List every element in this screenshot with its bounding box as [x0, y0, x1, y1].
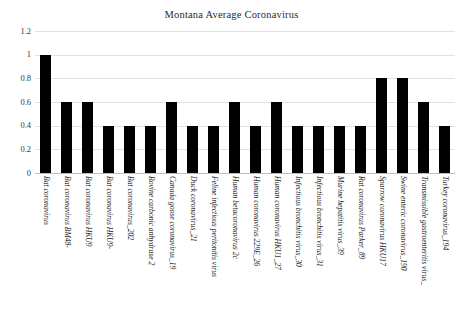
x-axis-tick: Turkey coronavirus_194 [438, 174, 452, 332]
x-axis-tick: Infectious bronchitis virus_30 [291, 174, 305, 332]
y-axis-tick-label: 0.8 [1, 74, 31, 83]
x-axis-tick-label: Transmissible gastroenteritis virus_ [420, 176, 428, 285]
bar [376, 78, 387, 173]
bar [439, 126, 450, 173]
y-axis-tick-label: 0.2 [1, 145, 31, 154]
x-axis-tick-label: Duck coronavirus_21 [189, 176, 197, 242]
bar [418, 102, 429, 173]
x-axis-tick: Swine enteric coronavirus_190 [396, 174, 410, 332]
bar [292, 126, 303, 173]
bar [61, 102, 72, 173]
y-axis-tick-label: 1 [1, 50, 31, 59]
bar [397, 78, 408, 173]
x-axis-tick: Murine hepatitis virus_39 [333, 174, 347, 332]
x-axis-tick-label: Bat coronavirus BM48- [63, 176, 71, 248]
bar [313, 126, 324, 173]
x-axis-tick-label: Human betacoronavirus 2c [231, 176, 239, 259]
x-axis-tick: Feline infectious peritonitis virus [207, 174, 221, 332]
x-axis-tick-label: Canada goose coronavirus_19 [168, 176, 176, 269]
x-axis-tick-label: Bat coronavirus_202 [126, 176, 134, 240]
bar [229, 102, 240, 173]
x-axis-tick: Bat coronavirus HKU9 [81, 174, 95, 332]
x-axis: Bat coronavirusBat coronavirus BM48-Bat … [35, 174, 455, 334]
x-axis-tick: Sparrow coronavirus HKU17 [375, 174, 389, 332]
x-axis-tick-label: Murine hepatitis virus_39 [336, 176, 344, 255]
y-axis-tick-label: 0.6 [1, 98, 31, 107]
x-axis-tick-label: Swine enteric coronavirus_190 [399, 176, 407, 271]
x-axis-tick-label: Bovine carbonic anhydrase 2 [147, 176, 155, 265]
x-axis-tick: Rat coronavirus Parker_89 [354, 174, 368, 332]
x-axis-tick: Bovine carbonic anhydrase 2 [144, 174, 158, 332]
x-axis-tick: Canada goose coronavirus_19 [165, 174, 179, 332]
x-axis-tick: Bat coronavirus HKU9- [102, 174, 116, 332]
x-axis-tick: Bat coronavirus BM48- [60, 174, 74, 332]
bar [271, 102, 282, 173]
bar [187, 126, 198, 173]
y-axis-tick-label: 0 [1, 169, 31, 178]
x-axis-tick-label: Infectious bronchitis virus_30 [294, 176, 302, 267]
x-axis-tick-label: Human coronavirus 229E_26 [252, 176, 260, 266]
bar [250, 126, 261, 173]
y-axis: 00.20.40.60.811.2 [0, 0, 31, 334]
bar [103, 126, 114, 173]
x-axis-tick: Duck coronavirus_21 [186, 174, 200, 332]
bar [166, 102, 177, 173]
x-axis-tick-label: Bat coronavirus [42, 176, 50, 225]
x-axis-tick-label: Bat coronavirus HKU9 [84, 176, 92, 247]
x-axis-tick: Bat coronavirus_202 [123, 174, 137, 332]
x-axis-tick: Bat coronavirus [39, 174, 53, 332]
x-axis-tick-label: Sparrow coronavirus HKU17 [378, 176, 386, 266]
bar [334, 126, 345, 173]
bar [40, 55, 51, 173]
x-axis-tick-label: Infectious bronchitis virus_31 [315, 176, 323, 267]
x-axis-tick: Infectious bronchitis virus_31 [312, 174, 326, 332]
x-axis-tick-label: Human coronavirus HKU1_27 [273, 176, 281, 270]
bars-layer [35, 31, 455, 173]
x-axis-tick-label: Bat coronavirus HKU9- [105, 176, 113, 249]
x-axis-tick: Transmissible gastroenteritis virus_ [417, 174, 431, 332]
x-axis-tick: Human betacoronavirus 2c [228, 174, 242, 332]
chart-title: Montana Average Coronavirus [0, 9, 463, 20]
bar [124, 126, 135, 173]
x-axis-tick-label: Turkey coronavirus_194 [441, 176, 449, 250]
bar [82, 102, 93, 173]
x-axis-tick-label: Rat coronavirus Parker_89 [357, 176, 365, 259]
y-axis-tick-label: 1.2 [1, 27, 31, 36]
x-axis-tick: Human coronavirus HKU1_27 [270, 174, 284, 332]
bar-chart: Montana Average Coronavirus 00.20.40.60.… [0, 0, 463, 334]
y-axis-tick-label: 0.4 [1, 121, 31, 130]
x-axis-tick-label: Feline infectious peritonitis virus [210, 176, 218, 277]
x-axis-tick: Human coronavirus 229E_26 [249, 174, 263, 332]
bar [145, 126, 156, 173]
bar [208, 126, 219, 173]
bar [355, 126, 366, 173]
